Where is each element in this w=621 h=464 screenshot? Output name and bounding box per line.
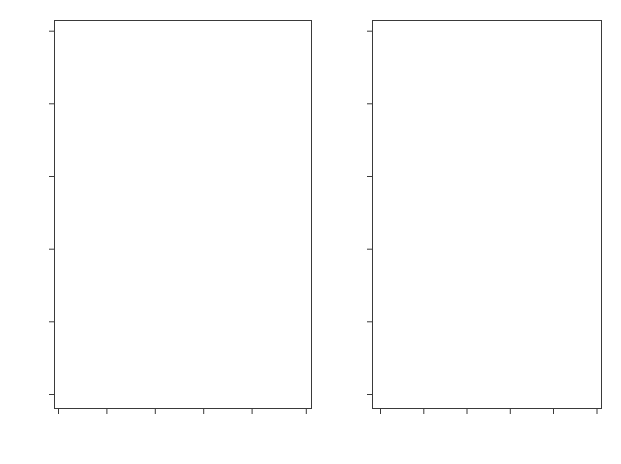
x-axis-left xyxy=(59,409,307,414)
annotated-panel xyxy=(49,21,312,415)
x-axis-right xyxy=(381,409,598,414)
y-axis-left xyxy=(49,31,54,394)
spaghetti-panel xyxy=(367,21,602,415)
two-panel-line-chart xyxy=(0,0,621,464)
y-axis-right xyxy=(367,31,372,394)
figure-root xyxy=(0,0,621,464)
plot-frame-left xyxy=(55,21,312,409)
plot-frame-right xyxy=(373,21,602,409)
